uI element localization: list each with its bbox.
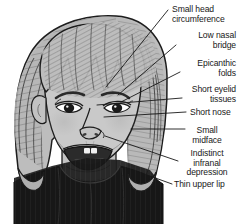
label-line: midface — [178, 136, 236, 146]
label-epicanthic-folds: Epicanthic folds — [176, 59, 236, 78]
label-line: bridge — [178, 41, 236, 51]
label-line: Thin upper lip — [174, 180, 225, 190]
label-short-eyelid-tissues: Short eyelid tissues — [178, 85, 236, 104]
label-short-nose: Short nose — [190, 108, 231, 118]
label-line: tissues — [178, 95, 236, 105]
label-line: Short nose — [190, 108, 231, 118]
leader-lines — [97, 10, 186, 184]
label-thin-upper-lip: Thin upper lip — [174, 180, 225, 190]
leader-small-head-circumference — [106, 10, 168, 87]
leader-short-eyelid-tissues — [97, 98, 182, 105]
label-small-midface: Small midface — [178, 126, 236, 145]
leader-short-nose — [104, 112, 186, 117]
label-low-nasal-bridge: Low nasal bridge — [178, 31, 236, 50]
label-line: depression — [176, 168, 238, 178]
label-small-head-circumference: Small head circumference — [172, 5, 225, 24]
leader-thin-upper-lip — [147, 175, 172, 184]
leader-indistinct-infranal-depression — [105, 136, 178, 161]
figure-root: Small head circumference Low nasal bridg… — [0, 0, 241, 224]
leader-epicanthic-folds — [121, 72, 180, 102]
label-line: folds — [176, 69, 236, 79]
label-indistinct-infranal-depression: Indistinct infranal depression — [176, 149, 238, 178]
label-line: circumference — [172, 15, 225, 25]
leader-low-nasal-bridge — [118, 45, 176, 95]
